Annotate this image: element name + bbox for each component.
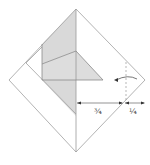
measure-label-one-quarter: ¼ xyxy=(129,108,137,116)
origami-diagram xyxy=(0,0,150,165)
measure-arrowhead-right-start xyxy=(125,102,129,105)
measure-arrowhead-left xyxy=(77,102,81,105)
measure-arrowhead-right-end xyxy=(141,102,145,105)
paper-outline xyxy=(9,9,145,152)
fold-arrowhead-icon xyxy=(114,78,118,82)
strip-top-edge xyxy=(26,47,42,63)
shaded-lower-flap xyxy=(42,80,76,116)
fold-arrow-icon xyxy=(116,77,137,80)
measure-label-three-quarters: ¾ xyxy=(94,108,102,116)
